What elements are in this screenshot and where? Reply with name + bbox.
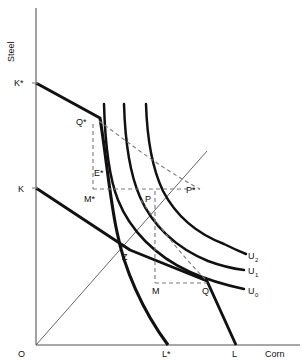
curve-label-u1-base: U: [248, 266, 255, 276]
diagram-canvas: Steel Corn O K* K L* L Q* E* M* P P* Z M…: [0, 0, 305, 360]
curve-label-u1-sub: 1: [255, 272, 259, 278]
point-label-z: Z: [122, 252, 128, 262]
point-label-q: Q: [202, 286, 209, 296]
curve-label-u0: U 0: [248, 286, 259, 298]
point-label-m: M: [152, 286, 160, 296]
origin-label: O: [18, 349, 25, 359]
axes-group: [36, 8, 300, 345]
indifference-curve-u2: [146, 104, 246, 254]
point-label-m-star: M*: [84, 194, 95, 204]
point-label-q-star: Q*: [76, 117, 87, 127]
curve-label-u0-sub: 0: [255, 292, 259, 298]
price-line-star: [99, 121, 200, 189]
curve-label-u2-sub: 2: [255, 257, 259, 263]
y-tick-label-k: K: [18, 184, 24, 194]
tick-marks: [32, 83, 38, 188]
x-tick-label-l-star: L*: [162, 349, 171, 359]
economics-diagram: Steel Corn O K* K L* L Q* E* M* P P* Z M…: [0, 0, 305, 360]
y-tick-label-k-star: K*: [14, 78, 24, 88]
ppf-inner-curve: [36, 188, 236, 345]
x-tick-label-l: L: [232, 349, 237, 359]
point-label-e-star: E*: [94, 168, 104, 178]
point-label-p: P: [145, 194, 151, 204]
curve-label-u1: U 1: [248, 266, 259, 278]
curve-label-u2: U 2: [248, 251, 259, 263]
curve-label-u2-base: U: [248, 251, 255, 261]
curve-label-u0-base: U: [248, 286, 255, 296]
point-label-p-star: P*: [186, 185, 196, 195]
x-axis-title: Corn: [265, 349, 285, 359]
y-axis-title: Steel: [6, 41, 16, 62]
